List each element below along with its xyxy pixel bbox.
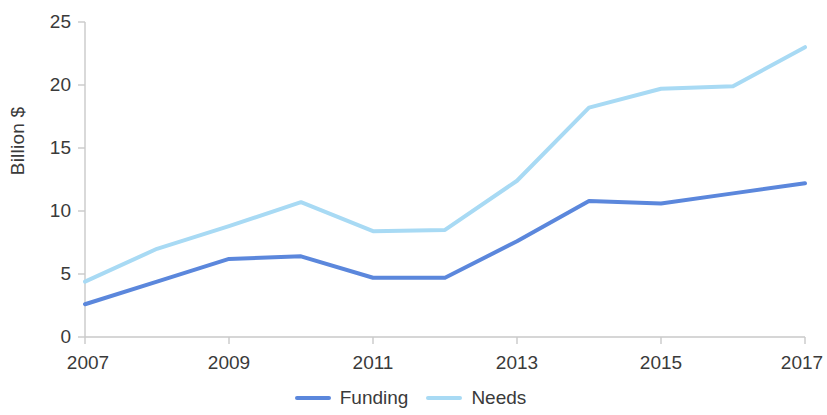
- legend-swatch-icon: [426, 396, 462, 400]
- legend-item-funding[interactable]: Funding: [295, 388, 409, 407]
- series-line-needs: [85, 47, 805, 281]
- legend-item-needs[interactable]: Needs: [426, 388, 526, 407]
- series-lines: [85, 47, 805, 304]
- axis-lines: [85, 22, 805, 337]
- chart-legend: FundingNeeds: [0, 388, 821, 407]
- legend-label: Funding: [340, 388, 409, 407]
- axis-tick-marks: [78, 22, 805, 344]
- legend-label: Needs: [471, 388, 526, 407]
- series-line-funding: [85, 183, 805, 304]
- legend-swatch-icon: [295, 396, 331, 400]
